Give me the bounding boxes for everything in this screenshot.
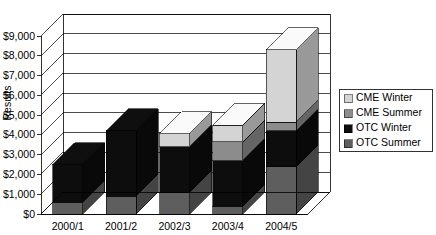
legend-swatch-cme-summer [344, 110, 352, 118]
legend-item-label: OTC Winter [356, 121, 412, 133]
legend-swatch-cme-winter [344, 95, 352, 103]
bar-column [213, 103, 265, 214]
legend-item-label: CME Winter [356, 91, 413, 103]
y-axis-tick-label: $9,000 [3, 30, 35, 42]
chart-container: $0$1,000$2,000$3,000$4,000$5,000$6,000$7… [0, 0, 436, 235]
chart-legend: CME WinterCME SummerOTC WinterOTC Summer [339, 89, 432, 151]
x-axis-category-label: 2001/2 [105, 220, 137, 232]
legend-swatch-otc-summer [344, 140, 352, 148]
y-axis-tick-label: $0 [23, 208, 35, 220]
x-axis-category-label: 2003/4 [212, 220, 244, 232]
y-axis-tick-label: $1,000 [3, 188, 35, 200]
bar-column [53, 143, 105, 214]
results-stacked-column-chart: $0$1,000$2,000$3,000$4,000$5,000$6,000$7… [0, 0, 436, 235]
legend-swatch-otc-winter [344, 125, 352, 133]
bar-column [160, 112, 212, 214]
y-axis-tick-label: $8,000 [3, 49, 35, 61]
legend-item-label: OTC Summer [356, 136, 421, 148]
x-axis-category-label: 2004/5 [265, 220, 297, 232]
y-axis-title-text: Results [1, 85, 13, 120]
x-axis-category-label: 2000/1 [52, 220, 84, 232]
x-axis-category-label: 2002/3 [158, 220, 190, 232]
y-axis-tick-label: $3,000 [3, 148, 35, 160]
y-axis-tick-label: $2,000 [3, 168, 35, 180]
legend-item-label: CME Summer [356, 106, 422, 118]
bar-column [106, 109, 158, 214]
y-axis-tick-labels: $0$1,000$2,000$3,000$4,000$5,000$6,000$7… [3, 30, 35, 220]
y-axis-tick-label: $4,000 [3, 128, 35, 140]
legend-item[interactable]: CME Summer [344, 106, 422, 118]
x-axis-category-labels: 2000/12001/22002/32003/42004/5 [52, 220, 298, 232]
y-axis-title: Results [1, 85, 13, 120]
legend-item[interactable]: OTC Summer [344, 136, 421, 148]
bar-column [266, 28, 318, 214]
y-axis-tick-label: $7,000 [3, 69, 35, 81]
